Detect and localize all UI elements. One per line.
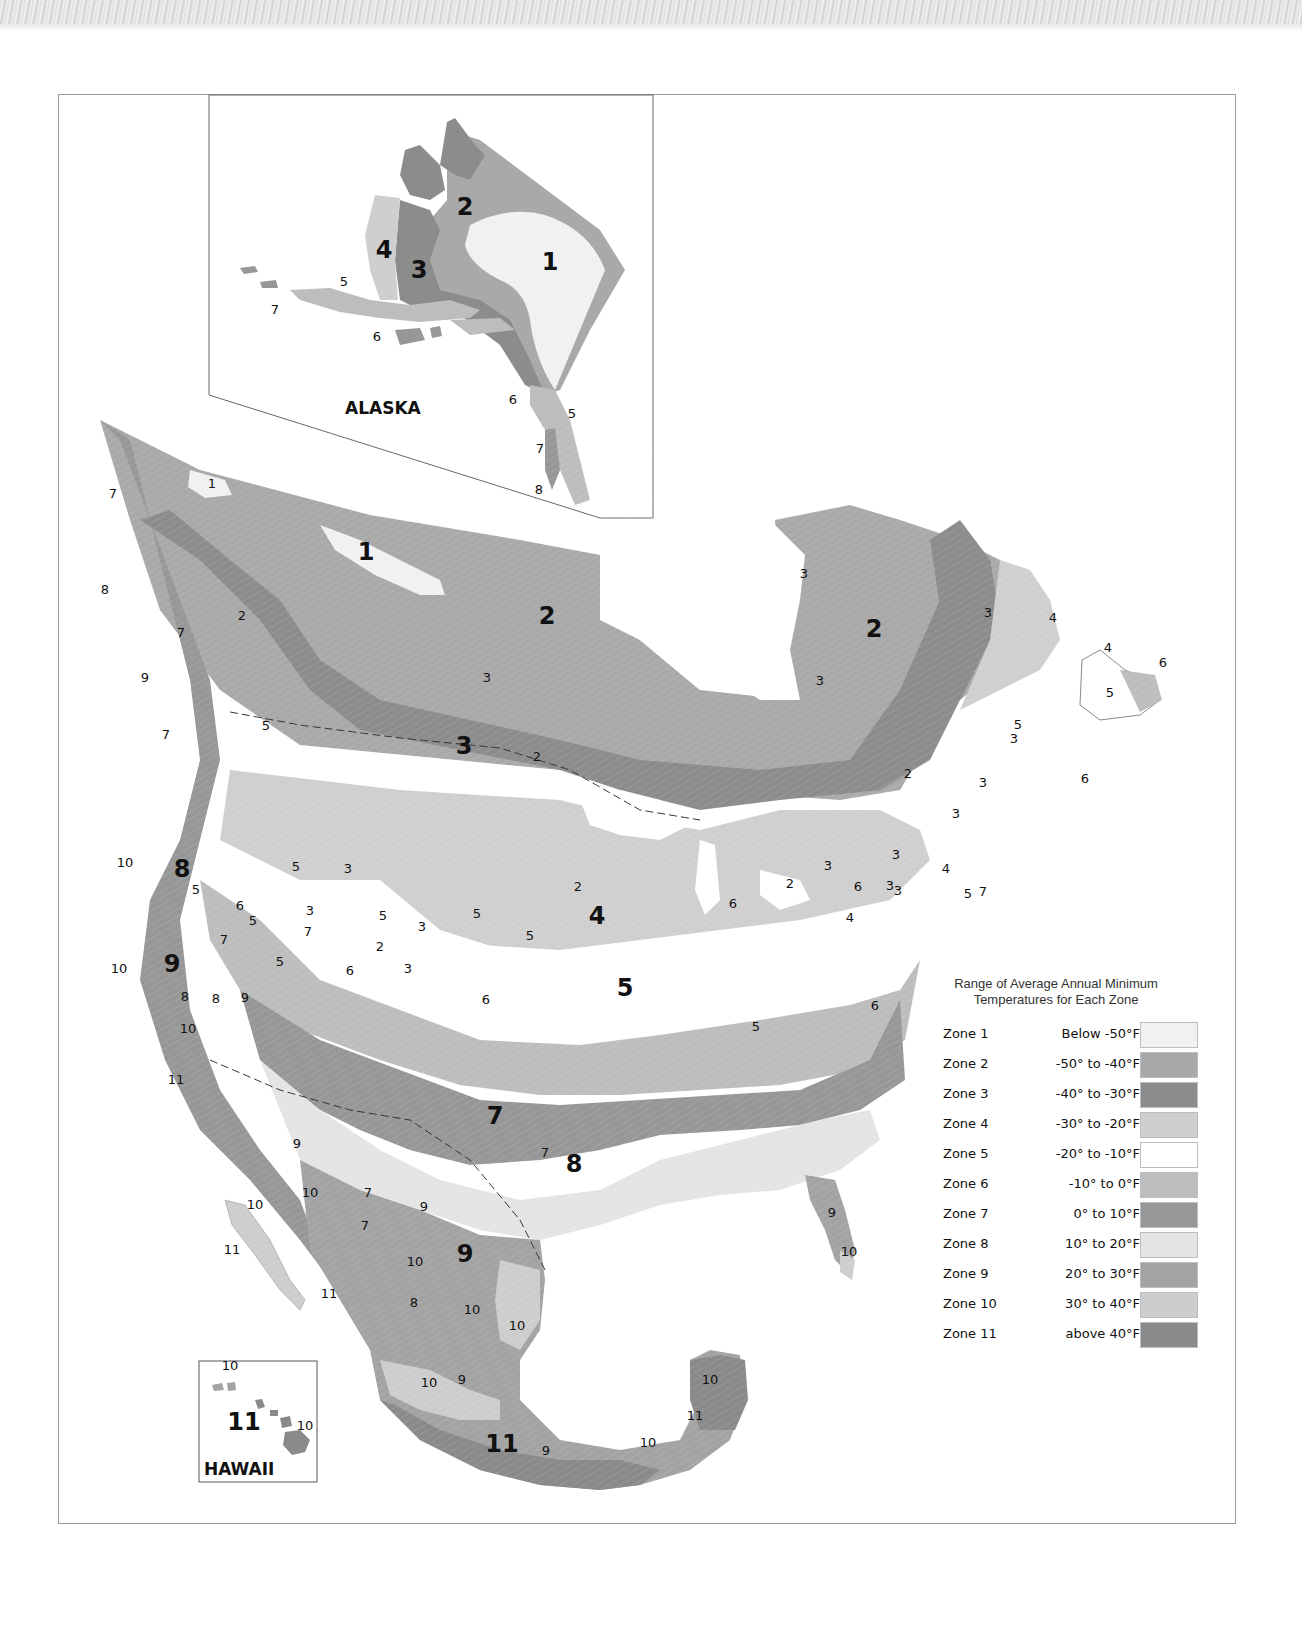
zone-label: 5 <box>568 406 576 421</box>
hawaii-label: HAWAII <box>204 1459 274 1479</box>
zone-label: 5 <box>1014 717 1022 732</box>
legend-title-line1: Range of Average Annual Minimum <box>940 976 1172 992</box>
legend-zone-range: above 40°F <box>1020 1326 1140 1341</box>
zone-label: 3 <box>800 566 808 581</box>
legend-zone-range: 20° to 30°F <box>1020 1266 1140 1281</box>
zone-label: 8 <box>174 855 191 883</box>
legend-zone-name: Zone 3 <box>943 1086 989 1101</box>
legend-rows: Zone 1Below -50°FZone 2-50° to -40°FZone… <box>940 1022 1200 1352</box>
zone-label: 3 <box>824 858 832 873</box>
zone-label: 3 <box>952 806 960 821</box>
zone-label: 3 <box>1010 731 1018 746</box>
zone-label: 11 <box>168 1072 185 1087</box>
legend: Range of Average Annual Minimum Temperat… <box>940 976 1200 1352</box>
zone-label: 7 <box>361 1218 369 1233</box>
zone-label: 7 <box>177 625 185 640</box>
zone-label: 6 <box>1159 655 1167 670</box>
legend-swatch <box>1140 1172 1198 1198</box>
legend-zone-name: Zone 6 <box>943 1176 989 1191</box>
zone-label: 7 <box>487 1102 504 1130</box>
legend-zone-name: Zone 7 <box>943 1206 989 1221</box>
legend-row: Zone 3-40° to -30°F <box>940 1082 1200 1112</box>
legend-swatch <box>1140 1322 1198 1348</box>
zone-label: 6 <box>509 392 517 407</box>
zone-label: 9 <box>542 1443 550 1458</box>
legend-swatch <box>1140 1202 1198 1228</box>
legend-zone-name: Zone 10 <box>943 1296 997 1311</box>
zone-label: 10 <box>180 1021 197 1036</box>
legend-zone-range: Below -50°F <box>1020 1026 1140 1041</box>
legend-row: Zone 11above 40°F <box>940 1322 1200 1352</box>
legend-title: Range of Average Annual Minimum Temperat… <box>940 976 1172 1008</box>
zone-label: 4 <box>589 902 606 930</box>
zone-label: 2 <box>238 608 246 623</box>
zone-label: 3 <box>984 605 992 620</box>
zone-label: 8 <box>535 482 543 497</box>
legend-swatch <box>1140 1022 1198 1048</box>
zone-label: 10 <box>841 1244 858 1259</box>
legend-row: Zone 1030° to 40°F <box>940 1292 1200 1322</box>
zone-label: 7 <box>979 884 987 899</box>
zone-label: 3 <box>411 256 428 284</box>
legend-zone-range: -10° to 0°F <box>1020 1176 1140 1191</box>
zone-label: 2 <box>533 749 541 764</box>
zone-label: 3 <box>979 775 987 790</box>
zone-label: 2 <box>376 939 384 954</box>
zone-label: 3 <box>344 861 352 876</box>
legend-zone-range: -40° to -30°F <box>1020 1086 1140 1101</box>
zone-label: 6 <box>373 329 381 344</box>
zone-label: 11 <box>485 1430 518 1458</box>
zone-label: 7 <box>109 486 117 501</box>
zone-label: 2 <box>866 615 883 643</box>
zone-label: 5 <box>526 928 534 943</box>
zone-label: 5 <box>964 886 972 901</box>
zone-label: 3 <box>306 903 314 918</box>
zone-label: 5 <box>379 908 387 923</box>
zone-label: 10 <box>247 1197 264 1212</box>
legend-zone-name: Zone 8 <box>943 1236 989 1251</box>
zone-label: 10 <box>407 1254 424 1269</box>
zone-label: 7 <box>162 727 170 742</box>
zone-label: 9 <box>420 1199 428 1214</box>
legend-swatch <box>1140 1292 1198 1318</box>
zone-label: 5 <box>292 859 300 874</box>
legend-zone-range: 10° to 20°F <box>1020 1236 1140 1251</box>
legend-zone-name: Zone 5 <box>943 1146 989 1161</box>
zone-label: 5 <box>473 906 481 921</box>
zone-label: 5 <box>249 913 257 928</box>
zone-label: 9 <box>457 1240 474 1268</box>
zone-label: 8 <box>212 991 220 1006</box>
legend-title-line2: Temperatures for Each Zone <box>940 992 1172 1008</box>
zone-label: 8 <box>410 1295 418 1310</box>
zone-label: 9 <box>293 1136 301 1151</box>
legend-zone-range: -30° to -20°F <box>1020 1116 1140 1131</box>
legend-row: Zone 2-50° to -40°F <box>940 1052 1200 1082</box>
zone-label: 4 <box>942 861 950 876</box>
zone-label: 11 <box>224 1242 241 1257</box>
zone-label: 4 <box>1104 640 1112 655</box>
legend-zone-range: 30° to 40°F <box>1020 1296 1140 1311</box>
zone-label: 6 <box>871 998 879 1013</box>
zone-label: 3 <box>483 670 491 685</box>
zone-label: 1 <box>208 476 216 491</box>
zone-label: 2 <box>904 766 912 781</box>
zone-label: 7 <box>271 302 279 317</box>
legend-zone-name: Zone 9 <box>943 1266 989 1281</box>
legend-zone-name: Zone 4 <box>943 1116 989 1131</box>
hardiness-zone-map: ALASKA HAWAII 21435766578112233334465782… <box>0 0 1302 1628</box>
zone-label: 4 <box>846 910 854 925</box>
zone-label: 3 <box>886 878 894 893</box>
zone-label: 5 <box>1106 685 1114 700</box>
zone-label: 2 <box>574 879 582 894</box>
zone-label: 2 <box>786 876 794 891</box>
zone-label: 5 <box>192 882 200 897</box>
legend-row: Zone 70° to 10°F <box>940 1202 1200 1232</box>
zone-label: 7 <box>364 1185 372 1200</box>
legend-swatch <box>1140 1052 1198 1078</box>
zone-label: 10 <box>297 1418 314 1433</box>
zone-label: 5 <box>262 718 270 733</box>
alaska-label: ALASKA <box>345 398 422 418</box>
zone-label: 10 <box>702 1372 719 1387</box>
zone-label: 3 <box>456 732 473 760</box>
zone-label: 9 <box>828 1205 836 1220</box>
